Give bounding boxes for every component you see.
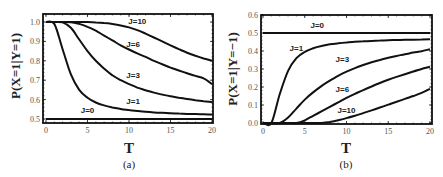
curve-label: J=0	[310, 21, 324, 30]
curves-b: J=0J=1J=3J=6J=10	[263, 21, 430, 126]
y-tick-label: 0.4	[248, 47, 258, 56]
y-tick-label: 0.5	[248, 29, 258, 38]
x-tick-label: 20	[208, 126, 216, 135]
curve-label: J=3	[336, 55, 350, 64]
curves-a: J=0J=1J=3J=6J=10	[46, 17, 212, 119]
x-tick-label: 20	[426, 127, 434, 136]
figure: 051015200.50.60.70.80.91.0 J=0J=1J=3J=6J…	[0, 0, 443, 177]
y-tick-label: 0.9	[30, 37, 40, 46]
chart-panel-b: 051015200.00.10.20.30.40.50.6 J=0J=1J=3J…	[225, 11, 434, 171]
y-axis-label-a: P(X=1|Y=1)	[8, 33, 23, 99]
x-tick-label: 5	[303, 127, 307, 136]
y-tick-label: 0.6	[248, 11, 258, 20]
x-tick-label: 0	[44, 126, 48, 135]
x-tick-label: 15	[167, 126, 175, 135]
curve-label: J=6	[336, 85, 350, 94]
y-tick-label: 0.2	[248, 83, 258, 92]
y-tick-label: 0.1	[248, 101, 258, 110]
caption-a: (a)	[123, 158, 136, 171]
y-tick-label: 0.7	[30, 76, 40, 85]
x-axis-label-b: T	[341, 140, 351, 156]
x-tick-label: 10	[125, 126, 133, 135]
x-tick-label: 5	[86, 126, 90, 135]
y-tick-label: 0.8	[30, 57, 40, 66]
x-axis-label-a: T	[124, 140, 134, 156]
y-tick-label: 0.6	[30, 96, 40, 105]
y-tick-label: 0.5	[30, 115, 40, 124]
y-tick-label: 1.0	[30, 18, 40, 27]
curve-label: J=1	[290, 44, 304, 53]
curve-label: J=3	[126, 71, 140, 80]
curve-label: J=6	[126, 40, 140, 49]
y-tick-label: 0.0	[248, 119, 258, 128]
curve-j-3	[46, 22, 212, 102]
curve-label: J=10	[337, 106, 356, 115]
chart-panel-a: 051015200.50.60.70.80.91.0 J=0J=1J=3J=6J…	[8, 14, 216, 171]
curve-label: J=10	[128, 17, 147, 26]
x-tick-label: 15	[384, 127, 392, 136]
caption-b: (b)	[340, 158, 353, 171]
x-tick-label: 10	[343, 127, 351, 136]
y-tick-label: 0.3	[248, 65, 258, 74]
y-axis-label-b: P(X=1|Y=−1)	[225, 32, 240, 105]
curve-label: J=1	[126, 97, 140, 106]
x-tick-label: 0	[261, 127, 265, 136]
curve-label: J=0	[81, 106, 95, 115]
